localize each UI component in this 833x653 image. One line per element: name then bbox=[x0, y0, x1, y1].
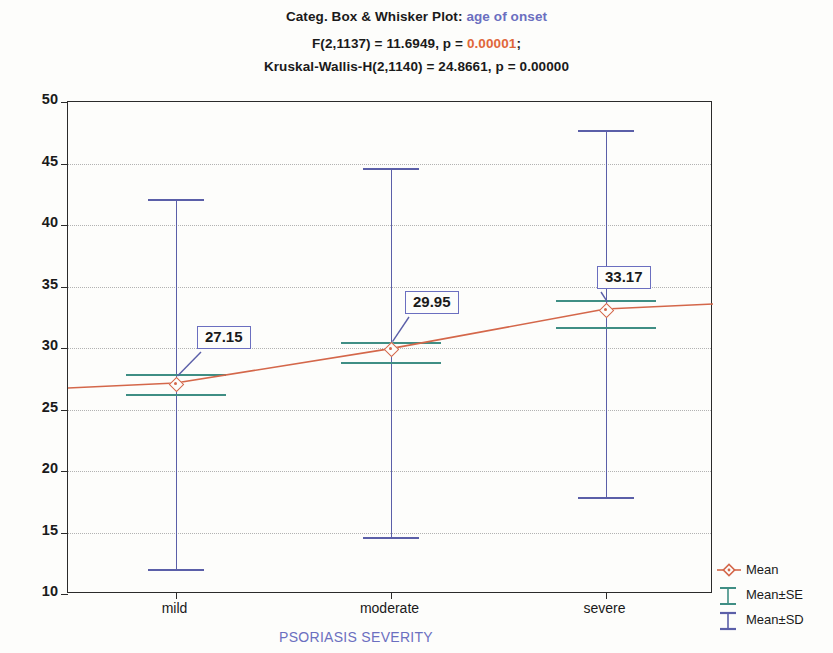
legend-item-mean: Mean bbox=[716, 559, 830, 584]
legend-label-mean-se: Mean±SE bbox=[746, 587, 803, 602]
anova-stat-line: F(2,1137) = 11.6949, p = 0.00001; bbox=[0, 36, 833, 51]
legend-label-mean-sd: Mean±SD bbox=[746, 612, 804, 627]
anova-stat-text: F(2,1137) = 11.6949, p = bbox=[312, 36, 467, 51]
legend-item-mean-sd: Mean±SD bbox=[716, 609, 830, 634]
chart-title: Categ. Box & Whisker Plot: age of onset bbox=[0, 9, 833, 24]
legend-item-mean-se: Mean±SE bbox=[716, 584, 830, 609]
chart-title-variable: age of onset bbox=[466, 9, 547, 24]
y-axis-tick-label: 20 bbox=[12, 460, 58, 476]
y-axis-tick-label: 30 bbox=[12, 337, 58, 353]
y-axis-tick bbox=[61, 471, 68, 472]
value-label-moderate: 29.95 bbox=[405, 291, 459, 314]
y-axis-tick bbox=[61, 594, 68, 595]
y-axis-tick bbox=[61, 164, 68, 165]
y-axis-tick bbox=[61, 287, 68, 288]
x-axis-title: PSORIASIS SEVERITY bbox=[0, 629, 712, 645]
legend-label-mean: Mean bbox=[746, 562, 779, 577]
mean-marker-center bbox=[174, 382, 177, 385]
errorbar-sd-icon bbox=[716, 609, 742, 633]
y-axis-tick bbox=[61, 225, 68, 226]
y-axis-tick-label: 35 bbox=[12, 276, 58, 292]
x-axis-category-label: moderate bbox=[320, 600, 460, 616]
y-axis-tick-label: 40 bbox=[12, 214, 58, 230]
x-axis-category-label: severe bbox=[535, 600, 675, 616]
x-axis-category-label: mild bbox=[105, 600, 245, 616]
anova-p-value: 0.00001 bbox=[467, 36, 517, 51]
value-label-severe: 33.17 bbox=[597, 266, 651, 289]
mean-marker-center bbox=[604, 308, 607, 311]
y-axis-tick-label: 50 bbox=[12, 91, 58, 107]
mean-marker-icon bbox=[716, 559, 742, 583]
chart-legend: Mean Mean±SE Mean±SD bbox=[716, 559, 830, 634]
y-axis-tick bbox=[61, 348, 68, 349]
errorbar-se-icon bbox=[716, 584, 742, 608]
y-axis-tick-label: 15 bbox=[12, 522, 58, 538]
chart-canvas: Categ. Box & Whisker Plot: age of onset … bbox=[0, 0, 833, 653]
kruskal-wallis-stat-line: Kruskal-Wallis-H(2,1140) = 24.8661, p = … bbox=[0, 59, 833, 74]
value-label-mild: 27.15 bbox=[197, 326, 251, 349]
y-axis-tick-label: 10 bbox=[12, 583, 58, 599]
chart-title-prefix: Categ. Box & Whisker Plot: bbox=[286, 9, 466, 24]
y-axis-tick-label: 25 bbox=[12, 399, 58, 415]
y-axis-tick-label: 45 bbox=[12, 153, 58, 169]
y-axis-tick bbox=[61, 102, 68, 103]
y-axis-tick bbox=[61, 533, 68, 534]
anova-stat-suffix: ; bbox=[516, 36, 521, 51]
plot-area bbox=[67, 101, 712, 593]
y-axis-tick bbox=[61, 410, 68, 411]
